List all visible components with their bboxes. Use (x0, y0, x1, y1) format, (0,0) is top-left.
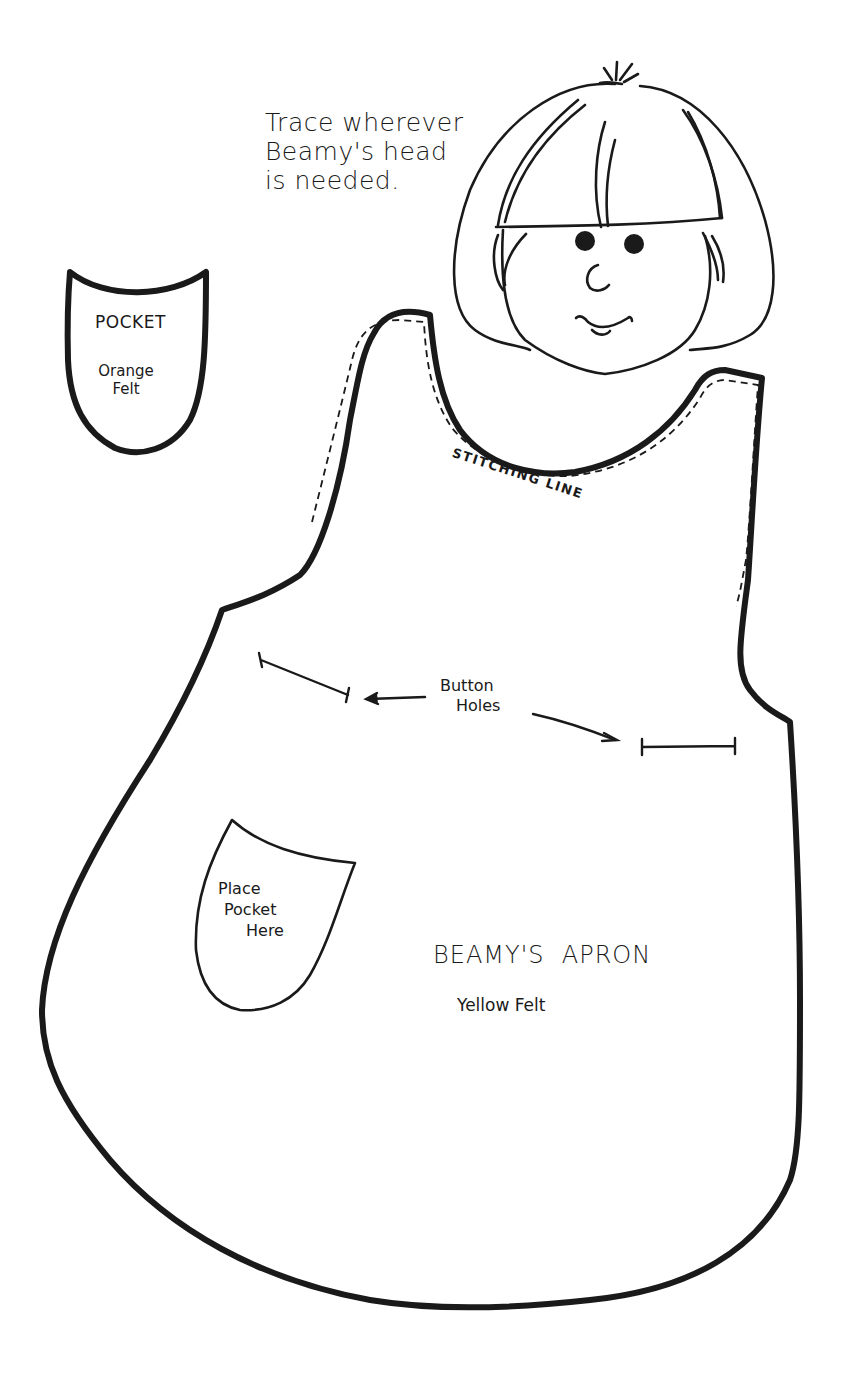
beamy-head-drawing (454, 62, 773, 374)
note-line: is needed. (265, 166, 464, 195)
pocket-material: Orange Felt (95, 362, 157, 398)
apron-outline (42, 312, 800, 1308)
stitching-line (312, 320, 758, 606)
head-trace-note: Trace wherever Beamy's head is needed. (265, 108, 464, 195)
apron-material: Yellow Felt (457, 995, 545, 1015)
right-eye (624, 234, 644, 254)
apron-title: BEAMY'S APRON (433, 941, 651, 969)
left-eye (575, 231, 595, 251)
place-pocket-line: Here (218, 920, 284, 941)
pocket-material-line: Felt (95, 380, 157, 398)
place-pocket-label: Place Pocket Here (218, 878, 284, 941)
note-line: Beamy's head (265, 137, 464, 166)
place-pocket-line: Pocket (218, 899, 284, 920)
place-pocket-line: Place (218, 878, 284, 899)
note-line: Trace wherever (265, 108, 464, 137)
button-holes-line: Holes (440, 696, 500, 716)
pattern-artwork (0, 0, 857, 1389)
button-holes-line: Button (440, 676, 500, 696)
button-holes-label: Button Holes (440, 676, 500, 716)
pocket-material-line: Orange (95, 362, 157, 380)
pocket-title: POCKET (95, 312, 166, 332)
